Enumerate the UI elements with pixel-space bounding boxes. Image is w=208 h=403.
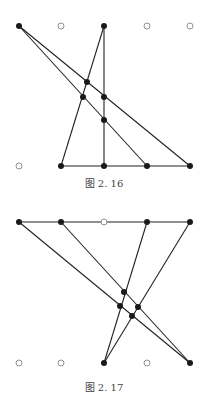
figure-caption-2-17: 图 2. 17	[0, 379, 208, 394]
filled-point	[101, 360, 107, 366]
line-segment	[104, 222, 190, 363]
filled-point	[144, 163, 150, 169]
hollow-point	[101, 219, 107, 225]
filled-point	[187, 219, 193, 225]
hollow-point	[16, 163, 22, 169]
filled-point	[101, 23, 107, 29]
filled-point	[101, 163, 107, 169]
filled-point	[58, 219, 64, 225]
hollow-point	[187, 23, 193, 29]
filled-point	[144, 219, 150, 225]
filled-point	[187, 360, 193, 366]
hollow-point	[16, 360, 22, 366]
filled-point	[135, 304, 141, 310]
filled-point	[101, 117, 107, 123]
hollow-point	[144, 23, 150, 29]
hollow-point	[58, 23, 64, 29]
hollow-point	[144, 360, 150, 366]
filled-point	[101, 94, 107, 100]
point-line-diagram	[0, 0, 208, 403]
line-segment	[19, 222, 190, 363]
figure-caption-2-16: 图 2. 16	[0, 175, 208, 190]
filled-point	[58, 163, 64, 169]
filled-point	[16, 219, 22, 225]
figure-1	[16, 23, 193, 169]
filled-point	[187, 163, 193, 169]
hollow-point	[58, 360, 64, 366]
filled-point	[84, 79, 90, 85]
filled-point	[117, 303, 123, 309]
filled-point	[80, 94, 86, 100]
figure-2	[16, 219, 193, 366]
filled-point	[16, 23, 22, 29]
filled-point	[121, 289, 127, 295]
filled-point	[129, 313, 135, 319]
